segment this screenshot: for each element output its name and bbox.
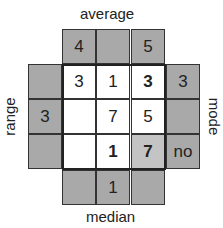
grid-cell[interactable]: 1: [96, 134, 130, 169]
median-cell[interactable]: [131, 170, 165, 205]
range-cell[interactable]: [28, 134, 62, 169]
mode-cell[interactable]: [166, 99, 200, 134]
median-cell[interactable]: [62, 170, 96, 205]
mode-cell[interactable]: 3: [166, 64, 200, 99]
mode-label: mode: [206, 98, 223, 136]
range-cell[interactable]: 3: [28, 99, 62, 134]
range-label: range: [1, 97, 18, 135]
range-cell[interactable]: [28, 64, 62, 99]
grid-cell[interactable]: 5: [131, 99, 165, 134]
average-cell[interactable]: [96, 29, 130, 64]
average-cell[interactable]: 4: [62, 29, 96, 64]
median-label: median: [86, 208, 135, 225]
grid-cell[interactable]: 3: [62, 64, 96, 99]
grid-cell[interactable]: 7: [131, 134, 165, 169]
average-cell[interactable]: 5: [131, 29, 165, 64]
grid-cell[interactable]: 3: [131, 64, 165, 99]
grid-cell[interactable]: 1: [96, 64, 130, 99]
grid-cell[interactable]: [62, 134, 96, 169]
grid-cell[interactable]: [62, 99, 96, 134]
median-cell[interactable]: 1: [96, 170, 130, 205]
grid-cell[interactable]: 7: [96, 99, 130, 134]
mode-cell[interactable]: no: [166, 134, 200, 169]
average-label: average: [80, 5, 134, 22]
